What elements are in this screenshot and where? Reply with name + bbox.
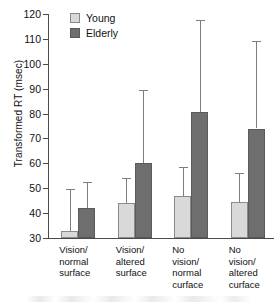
chart-figure: Transformed RT (msec) Young Elderly 3040… (0, 0, 278, 305)
error-bar-line-young-group-3 (183, 167, 184, 196)
error-bar-cap-elderly-group-2 (139, 90, 148, 91)
y-tick-mark (43, 138, 48, 139)
y-axis-title: Transformed RT (msec) (13, 34, 24, 194)
y-tick-label: 100 (23, 58, 41, 70)
error-bar-line-young-group-1 (70, 189, 71, 230)
error-bar-line-young-group-4 (239, 173, 240, 202)
bar-young-group-4[interactable] (231, 202, 248, 238)
y-tick-mark (43, 39, 48, 40)
error-bar-cap-elderly-group-1 (83, 182, 92, 183)
y-tick-mark (43, 14, 48, 15)
y-tick-mark (43, 213, 48, 214)
y-axis-spine (48, 14, 49, 238)
bar-young-group-3[interactable] (174, 196, 191, 238)
error-bar-line-young-group-2 (126, 178, 127, 203)
error-bar-cap-young-group-4 (235, 173, 244, 174)
error-bar-line-elderly-group-3 (200, 20, 201, 112)
plot-area: 30405060708090100110120 Vision/ normal s… (48, 14, 274, 238)
error-bar-cap-elderly-group-3 (196, 20, 205, 21)
x-tick-label-group-3: No vision/ normal curface (172, 244, 225, 290)
y-tick-mark (43, 163, 48, 164)
y-tick-label: 120 (23, 8, 41, 20)
y-tick-label: 90 (29, 83, 41, 95)
bar-young-group-2[interactable] (118, 203, 135, 238)
bar-young-group-1[interactable] (61, 231, 78, 238)
y-tick-label: 50 (29, 182, 41, 194)
x-axis-spine (48, 238, 274, 239)
error-bar-cap-young-group-3 (179, 167, 188, 168)
x-tick-label-group-4: No vision/ altered curface (229, 244, 278, 290)
y-tick-label: 60 (29, 157, 41, 169)
error-bar-line-elderly-group-1 (87, 182, 88, 208)
error-bar-cap-young-group-1 (66, 189, 75, 190)
error-bar-line-elderly-group-4 (256, 41, 257, 128)
x-tick-label-group-1: Vision/ normal surface (59, 244, 112, 279)
y-tick-mark (43, 64, 48, 65)
bar-elderly-group-2[interactable] (135, 163, 152, 238)
bar-elderly-group-1[interactable] (78, 208, 95, 238)
x-tick-label-group-2: Vision/ altered surface (116, 244, 169, 279)
y-tick-label: 40 (29, 207, 41, 219)
bar-elderly-group-3[interactable] (191, 112, 208, 238)
y-tick-label: 30 (29, 232, 41, 244)
y-tick-label: 70 (29, 132, 41, 144)
error-bar-cap-elderly-group-4 (252, 41, 261, 42)
y-tick-mark (43, 89, 48, 90)
scan-artifact (26, 296, 252, 302)
bar-elderly-group-4[interactable] (248, 129, 265, 239)
y-tick-mark (43, 114, 48, 115)
y-tick-label: 80 (29, 108, 41, 120)
y-tick-label: 110 (24, 33, 41, 45)
error-bar-cap-young-group-2 (122, 178, 131, 179)
y-tick-mark (43, 238, 48, 239)
y-tick-mark (43, 188, 48, 189)
error-bar-line-elderly-group-2 (143, 90, 144, 163)
